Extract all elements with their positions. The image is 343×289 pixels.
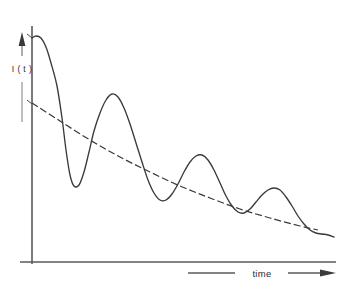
damped-oscillation-curve xyxy=(32,36,334,237)
y-axis-label: I ( t ) xyxy=(12,64,32,74)
y-axis-label-group: I ( t ) xyxy=(12,32,32,122)
x-axis-label: time xyxy=(252,268,271,279)
arrow-right-icon xyxy=(320,269,336,276)
figure-container: I ( t ) time xyxy=(0,0,343,289)
arrow-up-icon xyxy=(19,32,26,46)
exponential-envelope-curve xyxy=(32,103,318,230)
x-axis-label-group: time xyxy=(188,268,336,279)
damped-oscillation-chart: I ( t ) time xyxy=(0,0,343,289)
